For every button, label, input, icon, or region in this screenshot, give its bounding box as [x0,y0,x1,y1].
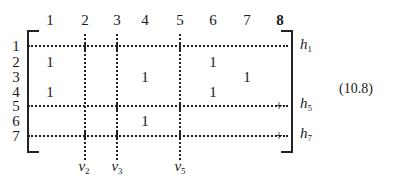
matrix-entry: 1 [141,70,149,85]
h-line-row-5 [28,105,288,107]
plus-mark: + [275,129,283,143]
row-header-1: 1 [12,39,20,54]
matrix-entry: 1 [243,70,251,85]
intersection-mark [84,132,86,140]
matrix-entry: 1 [141,114,149,129]
column-header-5: 5 [176,13,184,28]
v-line-col-5 [179,34,181,160]
row-header-7: 7 [12,129,20,144]
h-label-7: h7 [300,126,312,146]
intersection-mark [179,102,181,110]
h-line-row-1 [28,45,288,47]
right-bracket-bottom [281,151,293,153]
intersection-mark [116,132,118,140]
matrix-entry: 1 [209,85,217,100]
h-label-5: h5 [300,96,312,116]
intersection-mark [84,42,86,50]
plus-mark: + [275,99,283,113]
matrix-entry: 1 [46,85,54,100]
row-header-2: 2 [12,55,20,70]
intersection-mark [179,132,181,140]
column-header-2: 2 [81,13,89,28]
row-header-6: 6 [12,114,20,129]
matrix-entry: 1 [209,55,217,70]
right-bracket-top [281,30,293,32]
row-header-5: 5 [12,99,20,114]
h-label-1: h1 [300,37,312,57]
h-line-row-7 [28,135,288,137]
v-label-2: v2 [78,158,89,176]
v-line-col-3 [116,34,118,160]
v-label-3: v3 [111,158,122,176]
equation-number: (10.8) [339,81,373,97]
column-header-7: 7 [243,13,251,28]
column-header-8: 8 [276,13,284,28]
intersection-mark [116,102,118,110]
matrix-entry: 1 [46,55,54,70]
column-header-3: 3 [113,13,121,28]
intersection-mark [179,42,181,50]
column-header-6: 6 [209,13,217,28]
row-header-3: 3 [12,70,20,85]
v-label-5: v5 [174,158,185,176]
column-header-4: 4 [141,13,149,28]
intersection-mark [116,42,118,50]
left-bracket-bottom [27,151,39,153]
right-bracket [291,30,293,153]
column-header-1: 1 [46,13,54,28]
v-line-col-2 [84,34,86,160]
left-bracket-top [27,30,39,32]
